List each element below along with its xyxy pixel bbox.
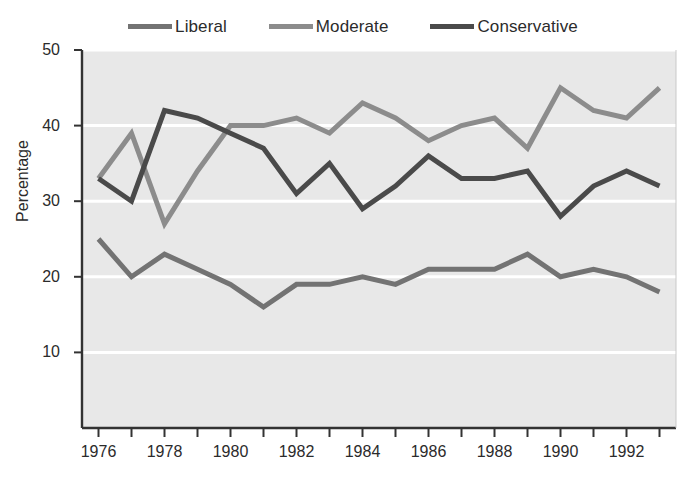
x-tick-label-1982: 1982 (267, 444, 327, 460)
x-axis-tick-labels: 197619781980198219841986198819901992 (0, 0, 688, 479)
line-chart: LiberalModerateConservative Percentage 1… (0, 0, 688, 479)
x-tick-label-1978: 1978 (135, 444, 195, 460)
x-tick-label-1980: 1980 (201, 444, 261, 460)
x-tick-label-1988: 1988 (465, 444, 525, 460)
x-tick-label-1990: 1990 (531, 444, 591, 460)
x-tick-label-1986: 1986 (399, 444, 459, 460)
x-tick-label-1984: 1984 (333, 444, 393, 460)
x-tick-label-1992: 1992 (597, 444, 657, 460)
x-tick-label-1976: 1976 (69, 444, 129, 460)
